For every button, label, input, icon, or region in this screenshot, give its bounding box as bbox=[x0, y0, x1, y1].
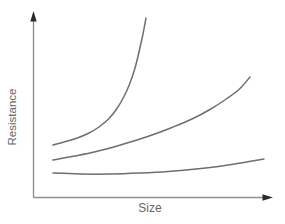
curves-group bbox=[53, 18, 264, 174]
x-axis-arrowhead-icon bbox=[263, 194, 274, 200]
y-axis-label: Resistance bbox=[6, 89, 18, 146]
x-axis-label: Size bbox=[138, 201, 162, 215]
y-axis-arrowhead-icon bbox=[30, 11, 36, 22]
chart-canvas: Resistance Size bbox=[0, 0, 285, 224]
chart-figure: Resistance Size bbox=[0, 0, 285, 224]
curve-top-curve bbox=[53, 18, 146, 145]
curve-bottom-curve bbox=[53, 159, 264, 174]
curve-middle-curve bbox=[53, 77, 250, 160]
